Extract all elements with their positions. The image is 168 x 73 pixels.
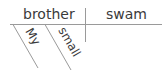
modifier-word-2: small xyxy=(55,25,83,60)
subject-word: brother xyxy=(23,6,75,22)
verb-word: swam xyxy=(106,6,147,22)
modifier-word-1: My xyxy=(22,26,43,48)
sentence-diagram: brother swam My small xyxy=(0,0,168,73)
